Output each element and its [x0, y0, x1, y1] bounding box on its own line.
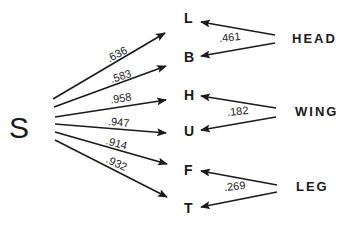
group-node-wing: WING [295, 104, 338, 119]
target-node-u: U [184, 123, 194, 139]
source-node-s: S [9, 111, 29, 145]
arrow-wing-to-u [201, 117, 276, 130]
weight-head: .461 [218, 30, 241, 44]
weight-wing: .182 [226, 104, 249, 118]
arrow-leg-to-t [201, 192, 277, 207]
target-node-l: L [184, 10, 193, 26]
group-node-head: HEAD [292, 31, 337, 46]
arrow-head-to-b [201, 43, 275, 56]
arrow-s-to-l [53, 33, 165, 99]
target-node-t: T [184, 200, 193, 216]
weight-s-u: .947 [108, 115, 130, 129]
target-node-f: F [184, 162, 193, 178]
group-node-leg: LEG [296, 179, 329, 194]
target-node-h: H [184, 87, 194, 103]
weight-leg: .269 [223, 179, 246, 193]
target-node-b: B [184, 49, 194, 65]
